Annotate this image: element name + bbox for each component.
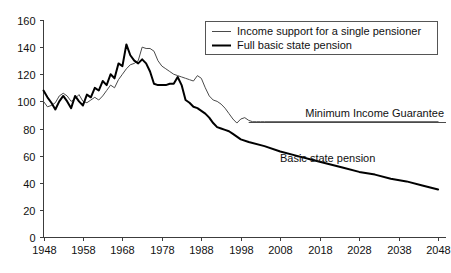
y-tick-label: 140 <box>17 42 35 54</box>
x-axis-tick-labels: 1948195819681978198819982008201820282038… <box>32 244 450 256</box>
y-tick-label: 0 <box>29 232 35 244</box>
x-tick-label: 1948 <box>32 244 56 256</box>
y-tick-label: 40 <box>23 178 35 190</box>
chart-container: 020406080100120140160 194819581968197819… <box>0 0 451 273</box>
x-tick-label: 1968 <box>110 244 134 256</box>
basic-pension-annotation-label: Basic state pension <box>280 152 375 164</box>
x-tick-label: 2018 <box>308 244 332 256</box>
x-tick-label: 2038 <box>387 244 411 256</box>
legend-label-income-support: Income support for a single pensioner <box>237 25 421 37</box>
x-tick-label: 2008 <box>268 244 292 256</box>
line-chart: 020406080100120140160 194819581968197819… <box>0 0 451 273</box>
x-tick-label: 2028 <box>347 244 371 256</box>
y-tick-label: 100 <box>17 96 35 108</box>
y-tick-label: 120 <box>17 69 35 81</box>
mig-annotation-label: Minimum Income Guarantee <box>305 107 444 119</box>
x-tick-label: 2048 <box>426 244 450 256</box>
y-tick-label: 20 <box>23 205 35 217</box>
y-tick-label: 160 <box>17 15 35 27</box>
legend-label-basic-pension: Full basic state pension <box>237 39 352 51</box>
chart-legend: Income support for a single pensioner Fu… <box>206 22 438 55</box>
y-tick-label: 60 <box>23 151 35 163</box>
x-tick-label: 1978 <box>150 244 174 256</box>
x-tick-label: 1958 <box>71 244 95 256</box>
x-tick-label: 1988 <box>189 244 213 256</box>
x-tick-label: 1998 <box>229 244 253 256</box>
y-tick-label: 80 <box>23 124 35 136</box>
